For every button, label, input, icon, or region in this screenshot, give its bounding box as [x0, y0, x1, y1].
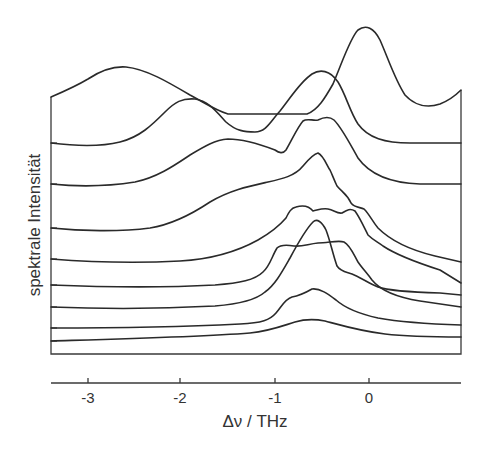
spectra-chart: -3 -2 -1 0 Δν / THz spektrale Intensität — [0, 0, 489, 450]
spectrum-trace-2 — [51, 71, 461, 145]
spectrum-trace-5 — [51, 206, 461, 283]
spectrum-trace-3 — [51, 117, 461, 185]
x-tick-label: -2 — [173, 389, 186, 406]
x-axis-title: Δν / THz — [222, 412, 287, 431]
y-axis-title: spektrale Intensität — [25, 153, 44, 296]
spectrum-trace-4 — [51, 153, 461, 262]
x-axis: -3 -2 -1 0 Δν / THz — [51, 378, 461, 431]
spectrum-trace-1 — [51, 27, 461, 114]
x-tick-label: 0 — [365, 389, 373, 406]
x-tick-label: -3 — [81, 389, 94, 406]
y-offset-ticks — [51, 143, 57, 341]
x-tick-label: -1 — [268, 389, 281, 406]
spectrum-trace-7 — [51, 220, 461, 308]
plot-frame — [51, 90, 461, 354]
